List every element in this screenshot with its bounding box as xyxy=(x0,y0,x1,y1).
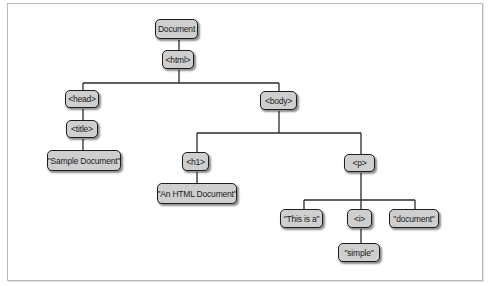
node-title: <title> xyxy=(66,120,98,138)
node-sample-document: "Sample Document" xyxy=(47,150,121,171)
node-html: <html> xyxy=(162,50,194,69)
node-simple: "simple" xyxy=(338,243,380,262)
node-body: <body> xyxy=(260,91,297,110)
tree-edges xyxy=(8,4,484,282)
node-this-is-a: "This is a" xyxy=(280,209,323,228)
diagram-frame xyxy=(7,3,483,281)
node-h1: <h1> xyxy=(182,152,209,171)
node-i: <i> xyxy=(347,209,372,228)
node-p: <p> xyxy=(344,154,375,172)
node-head: <head> xyxy=(65,90,99,108)
node-document: Document xyxy=(155,19,198,39)
node-document-text: "document" xyxy=(389,209,439,228)
node-an-html-document: "An HTML Document" xyxy=(157,183,237,204)
